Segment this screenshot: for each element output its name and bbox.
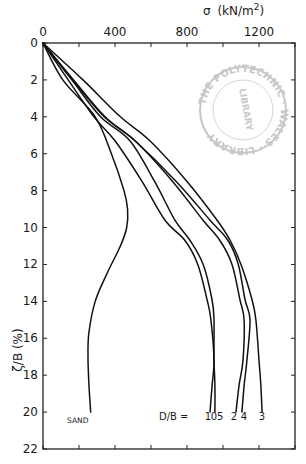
x-tick-label: 800 bbox=[176, 25, 199, 39]
x-tick-label: 0 bbox=[39, 25, 47, 39]
db-value-label: 4 bbox=[241, 411, 247, 422]
y-tick-label: 2 bbox=[30, 73, 38, 87]
x-axis-ticks bbox=[43, 43, 295, 449]
x-axis-title: σ (kN/m2) bbox=[203, 2, 264, 18]
y-axis-tick-labels: 0246810121416182022 bbox=[23, 36, 38, 456]
y-tick-label: 12 bbox=[23, 257, 38, 271]
y-tick-label: 10 bbox=[23, 221, 38, 235]
x-tick-label: 1200 bbox=[244, 25, 275, 39]
y-tick-label: 16 bbox=[23, 331, 38, 345]
db-value-label: 2 bbox=[231, 411, 237, 422]
y-axis-ticks bbox=[43, 43, 295, 449]
y-tick-label: 6 bbox=[30, 147, 38, 161]
library-stamp: THE POLYTECHNIC · WALES · LIBRARY LIBRAR… bbox=[196, 63, 290, 157]
db-prefix-label: D/B = bbox=[159, 411, 189, 422]
y-tick-label: 0 bbox=[30, 36, 38, 50]
y-tick-label: 4 bbox=[30, 110, 38, 124]
curve-1 bbox=[43, 43, 214, 412]
curve-4 bbox=[43, 43, 250, 412]
x-tick-label: 400 bbox=[104, 25, 127, 39]
db-value-label: 3 bbox=[259, 411, 265, 422]
y-tick-label: 18 bbox=[23, 368, 38, 382]
y-tick-label: 20 bbox=[23, 405, 38, 419]
stamp-center-text: LIBRARY bbox=[237, 88, 254, 132]
y-tick-label: 14 bbox=[23, 294, 38, 308]
chart-figure: THE POLYTECHNIC · WALES · LIBRARY LIBRAR… bbox=[0, 0, 306, 464]
db-value-labels: 105243 bbox=[205, 411, 265, 422]
plot-frame bbox=[43, 43, 295, 449]
y-tick-label: 8 bbox=[30, 184, 38, 198]
y-axis-title: ζ/B (%) bbox=[11, 328, 25, 371]
sand-label: SAND bbox=[67, 416, 89, 425]
x-axis-tick-labels: 04008001200 bbox=[39, 25, 274, 39]
db-value-label: 05 bbox=[211, 411, 224, 422]
y-tick-label: 22 bbox=[23, 442, 38, 456]
curve-3 bbox=[43, 43, 262, 412]
curve-0-5 bbox=[43, 43, 215, 412]
data-curves bbox=[43, 43, 262, 412]
